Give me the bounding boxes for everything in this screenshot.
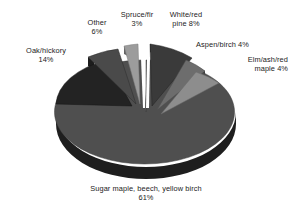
label-white-red-pine: White/red pine 8% (160, 10, 212, 29)
pie-chart: Oak/hickory 14% Other 6% Spruce/fir 3% W… (0, 0, 291, 213)
label-elm-ash-red-maple: Elm/ash/red maple 4% (196, 55, 288, 74)
label-spruce-fir: Spruce/fir 3% (113, 10, 161, 29)
label-other: Other 6% (76, 18, 118, 37)
pie-chart-graphic (0, 0, 291, 213)
label-sugar-maple-beech-yellow-birch: Sugar maple, beech, yellow birch 61% (46, 184, 246, 203)
label-aspen-birch: Aspen/birch 4% (196, 40, 288, 49)
label-oak-hickory: Oak/hickory 14% (6, 46, 86, 65)
